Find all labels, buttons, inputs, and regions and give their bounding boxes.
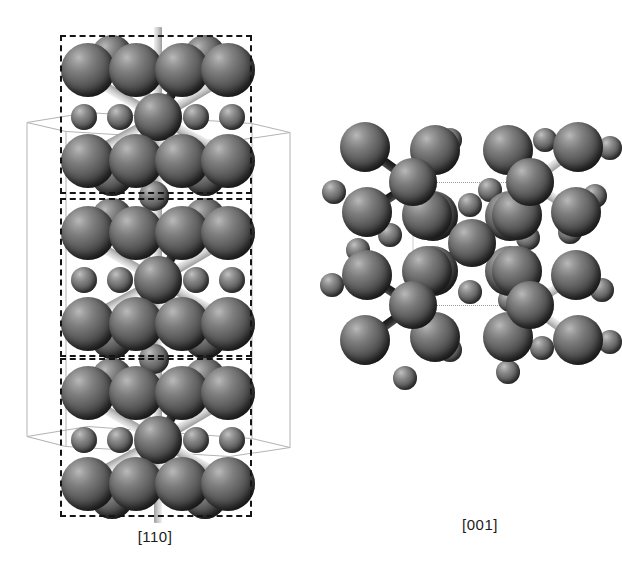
small-atom: [458, 193, 482, 217]
panel-110: [110]: [0, 0, 300, 580]
caption-001: [001]: [430, 516, 530, 533]
large-atom: [553, 315, 603, 365]
hub-large-atom: [506, 281, 554, 329]
small-atom: [496, 360, 520, 384]
large-atom: [553, 122, 603, 172]
small-atom: [320, 273, 344, 297]
small-atom: [458, 280, 482, 304]
hub-large-atom: [448, 219, 496, 267]
large-atom: [342, 250, 392, 300]
dashed-unit-cell: [60, 198, 252, 357]
dashed-unit-cell: [60, 358, 252, 517]
caption-110: [110]: [105, 528, 205, 545]
large-atom: [342, 187, 392, 237]
small-atom: [393, 366, 417, 390]
large-atom: [340, 122, 390, 172]
small-atom: [322, 180, 346, 204]
unit-cell-edge: [27, 123, 28, 437]
hub-large-atom: [389, 281, 437, 329]
large-atom: [340, 315, 390, 365]
small-atom: [530, 336, 554, 360]
hub-large-atom: [389, 158, 437, 206]
panel-001: [001]: [310, 0, 620, 580]
large-atom: [551, 187, 601, 237]
unit-cell-edge: [252, 123, 290, 133]
hub-large-atom: [506, 158, 554, 206]
unit-cell-edge: [252, 438, 290, 448]
unit-cell-edge: [290, 133, 291, 448]
dashed-unit-cell: [60, 35, 252, 194]
large-atom: [551, 250, 601, 300]
